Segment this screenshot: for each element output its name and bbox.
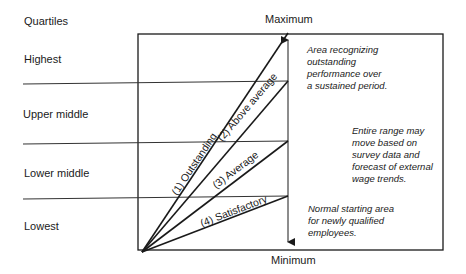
minimum-label: Minimum (271, 254, 316, 266)
line-above-average (142, 81, 288, 252)
label-outstanding: (1) Outstanding (169, 130, 219, 197)
quartile-lower-middle: Lower middle (24, 167, 89, 179)
quartile-upper-middle: Upper middle (23, 108, 88, 120)
quartile-divider-2 (23, 141, 288, 144)
quartiles-header: Quartiles (24, 15, 68, 27)
note-range-movement: Entire range may move based on survey da… (352, 125, 433, 185)
quartile-lowest: Lowest (24, 220, 59, 232)
note-starting-area: Normal starting area for newly qualified… (308, 203, 394, 239)
label-satisfactory: (4) Satisfactory (198, 192, 269, 229)
label-average: (3) Average (210, 148, 260, 190)
quartile-divider-1 (23, 81, 288, 84)
quartile-highest: Highest (24, 53, 61, 65)
maximum-label: Maximum (265, 13, 313, 25)
note-outstanding-area: Area recognizing outstanding performance… (307, 44, 387, 92)
